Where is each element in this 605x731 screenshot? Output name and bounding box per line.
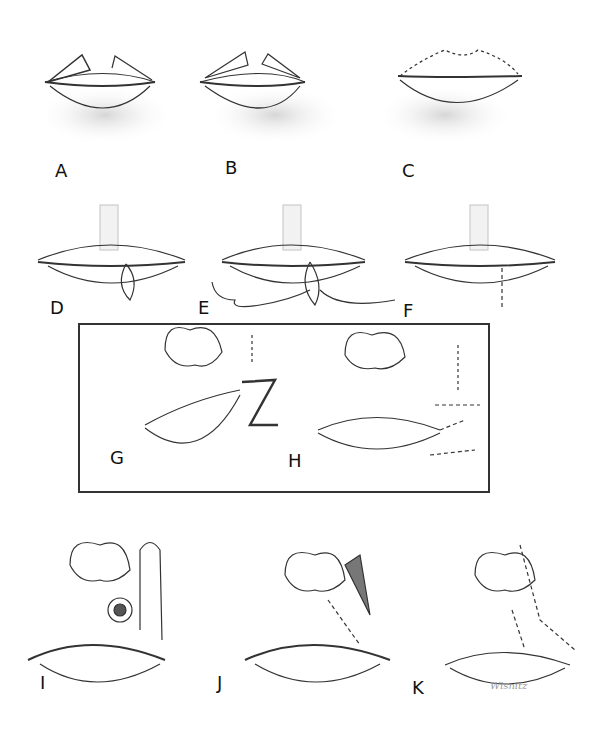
panel-b-drawing bbox=[200, 52, 345, 145]
panel-label-d: D bbox=[50, 297, 64, 318]
panel-label-g: G bbox=[110, 447, 124, 468]
panel-c-drawing bbox=[375, 50, 522, 145]
panel-j-drawing bbox=[245, 553, 390, 683]
panel-i-drawing bbox=[28, 543, 165, 683]
panel-a-drawing bbox=[35, 55, 175, 145]
artist-signature: Wisnitz bbox=[490, 680, 527, 691]
panel-d-drawing bbox=[38, 205, 185, 300]
panel-label-c: C bbox=[402, 160, 415, 181]
panel-label-f: F bbox=[403, 300, 413, 321]
panel-label-i: I bbox=[40, 672, 45, 693]
panel-e-drawing bbox=[212, 205, 395, 307]
panel-k-drawing bbox=[445, 545, 575, 684]
panel-label-j: J bbox=[217, 672, 222, 693]
panel-label-e: E bbox=[198, 297, 209, 318]
panel-g-h-frame bbox=[78, 323, 490, 493]
panel-label-h: H bbox=[288, 450, 302, 471]
panel-label-k: K bbox=[412, 677, 424, 698]
panel-f-drawing bbox=[405, 205, 555, 310]
panel-label-a: A bbox=[55, 160, 67, 181]
panel-label-b: B bbox=[225, 157, 237, 178]
